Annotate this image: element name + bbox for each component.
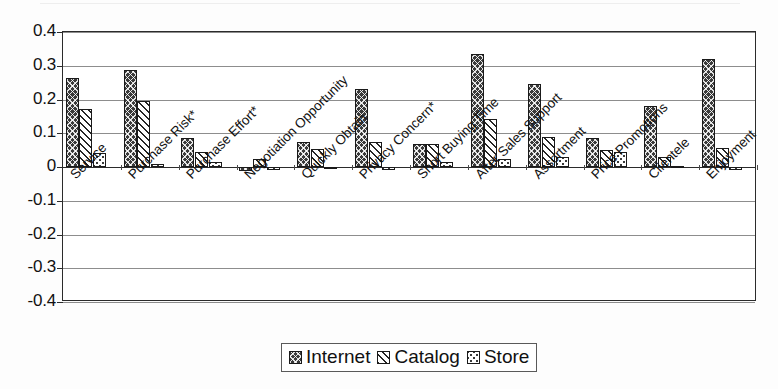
- x-tick-mark: [468, 165, 469, 170]
- y-tick-mark: [57, 268, 63, 269]
- bar-store-10: [671, 166, 684, 168]
- legend-item-internet: Internet: [289, 347, 370, 367]
- x-tick-mark: [121, 165, 122, 170]
- chart-legend: Internet Catalog Store: [281, 343, 537, 372]
- gridline--0.1: [63, 201, 755, 202]
- y-tick-label-0.1: 0.1: [8, 123, 56, 140]
- y-tick-label--0.3: -0.3: [8, 258, 56, 275]
- y-tick-mark: [57, 201, 63, 202]
- y-tick-mark: [57, 100, 63, 101]
- bar-internet-11: [702, 59, 715, 167]
- y-tick-mark: [57, 133, 63, 134]
- legend-item-catalog: Catalog: [377, 347, 460, 367]
- y-tick-mark: [57, 235, 63, 236]
- legend-swatch-internet-icon: [289, 351, 302, 364]
- x-tick-mark: [757, 165, 758, 170]
- x-tick-mark: [699, 165, 700, 170]
- x-tick-mark: [352, 165, 353, 170]
- bar-store-5: [382, 167, 395, 170]
- legend-swatch-store-icon: [467, 351, 480, 364]
- scan-artifact-line: [40, 3, 740, 4]
- y-tick-label-0.4: 0.4: [8, 22, 56, 39]
- y-tick-mark: [57, 302, 63, 303]
- bar-store-4: [324, 167, 337, 169]
- bar-store-11: [729, 167, 742, 170]
- chart-figure: 0.40.30.20.10-0.1-0.2-0.3-0.4 ServicePur…: [0, 0, 778, 389]
- bar-internet-0: [66, 78, 79, 167]
- y-tick-label-0.2: 0.2: [8, 90, 56, 107]
- legend-label-catalog: Catalog: [394, 347, 460, 367]
- y-tick-label-0: 0: [8, 157, 56, 174]
- gridline-0.3: [63, 66, 755, 67]
- legend-item-store: Store: [467, 347, 529, 367]
- y-tick-label--0.1: -0.1: [8, 191, 56, 208]
- x-tick-mark: [237, 165, 238, 170]
- bar-store-3: [267, 167, 280, 170]
- gridline-0.4: [63, 32, 755, 33]
- x-tick-mark: [179, 165, 180, 170]
- legend-swatch-catalog-icon: [377, 351, 390, 364]
- y-tick-label--0.2: -0.2: [8, 225, 56, 242]
- x-tick-mark: [641, 165, 642, 170]
- gridline--0.3: [63, 268, 755, 269]
- gridline--0.2: [63, 235, 755, 236]
- y-tick-mark: [57, 167, 63, 168]
- gridline-0.2: [63, 100, 755, 101]
- legend-label-internet: Internet: [306, 347, 370, 367]
- bar-internet-1: [124, 70, 137, 167]
- x-tick-mark: [526, 165, 527, 170]
- legend-label-store: Store: [484, 347, 529, 367]
- gridline--0.4: [63, 302, 755, 303]
- y-tick-mark: [57, 66, 63, 67]
- x-tick-mark: [294, 165, 295, 170]
- y-tick-mark: [57, 32, 63, 33]
- y-tick-label--0.4: -0.4: [8, 292, 56, 309]
- x-tick-mark: [584, 165, 585, 170]
- y-tick-label-0.3: 0.3: [8, 56, 56, 73]
- x-tick-mark: [410, 165, 411, 170]
